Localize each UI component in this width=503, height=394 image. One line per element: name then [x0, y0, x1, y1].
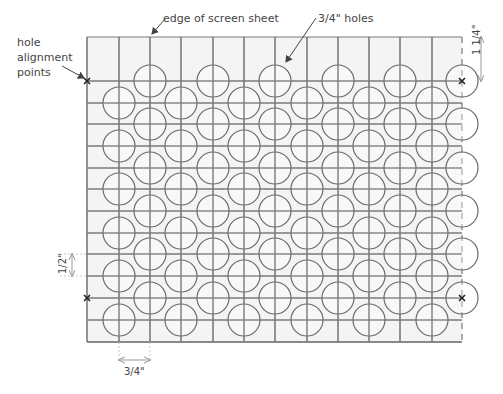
label-hole-alignment-1: hole [17, 36, 41, 49]
label-edge-of-screen-sheet: edge of screen sheet [163, 12, 279, 25]
label-hole-alignment-3: points [17, 66, 51, 79]
dimension-right-label: 1 1/4" [470, 25, 483, 55]
dimension-bottom-label: 3/4" [124, 365, 145, 378]
label-hole-alignment-2: alignment [17, 51, 73, 64]
arrow-alignment-icon [62, 66, 84, 78]
dimension-left-label: 1/2" [56, 253, 69, 274]
label-holes: 3/4" holes [318, 12, 374, 25]
screen-sheet-diagram [0, 0, 503, 394]
